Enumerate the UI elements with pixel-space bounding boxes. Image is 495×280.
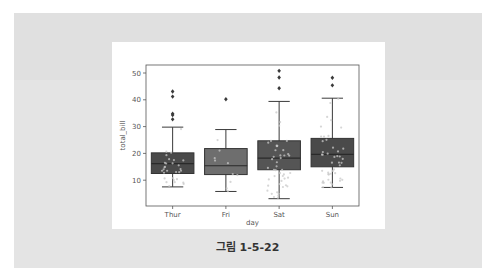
swarm-point (180, 128, 182, 130)
swarm-point (339, 164, 341, 166)
swarm-point (271, 193, 273, 195)
swarm-point (333, 156, 335, 158)
swarm-point (270, 140, 272, 142)
swarm-point (339, 180, 341, 182)
swarm-point (273, 156, 275, 158)
swarm-point (266, 190, 268, 192)
swarm-point (271, 158, 273, 160)
boxplot-chart: 1020304050total_billdayThurFriSatSun (112, 42, 385, 229)
swarm-point (322, 180, 324, 182)
swarm-point (168, 185, 170, 187)
swarm-point (327, 135, 329, 137)
y-tick-label: 50 (132, 70, 141, 78)
swarm-point (327, 173, 329, 175)
swarm-point (171, 162, 173, 164)
swarm-point (273, 175, 275, 177)
swarm-point (173, 159, 175, 161)
swarm-point (175, 171, 177, 173)
swarm-point (178, 164, 180, 166)
x-tick-label: Thur (164, 211, 181, 219)
swarm-point (274, 149, 276, 151)
swarm-point (331, 162, 333, 164)
x-tick-label: Sat (273, 211, 285, 219)
swarm-point (337, 98, 339, 100)
swarm-point (330, 173, 332, 175)
swarm-point (323, 136, 325, 138)
x-tick-label: Fri (222, 211, 230, 219)
swarm-point (331, 183, 333, 185)
swarm-point (182, 159, 184, 161)
swarm-point (334, 172, 336, 174)
swarm-point (161, 170, 163, 172)
swarm-point (277, 197, 279, 199)
swarm-point (163, 172, 165, 174)
swarm-point (342, 158, 344, 160)
swarm-point (279, 121, 281, 123)
y-axis-label: total_bill (119, 121, 127, 151)
swarm-point (340, 162, 342, 164)
swarm-point (174, 181, 176, 183)
swarm-point (163, 166, 165, 168)
swarm-point (339, 155, 341, 157)
swarm-point (336, 155, 338, 157)
swarm-point (267, 185, 269, 187)
swarm-point (278, 183, 280, 185)
swarm-point (275, 169, 277, 171)
swarm-point (330, 186, 332, 188)
swarm-point (282, 175, 284, 177)
swarm-point (165, 181, 167, 183)
swarm-point (216, 139, 218, 141)
y-tick-label: 10 (132, 177, 141, 185)
swarm-point (325, 139, 327, 141)
swarm-point (279, 172, 281, 174)
swarm-point (267, 142, 269, 144)
swarm-point (282, 149, 284, 151)
swarm-point (182, 181, 184, 183)
swarm-point (278, 125, 280, 127)
swarm-point (180, 170, 182, 172)
swarm-point (279, 154, 281, 156)
swarm-point (320, 126, 322, 128)
swarm-point (287, 153, 289, 155)
swarm-point (268, 178, 270, 180)
swarm-point (226, 187, 228, 189)
swarm-point (286, 185, 288, 187)
y-tick-label: 40 (132, 96, 141, 104)
swarm-point (275, 111, 277, 113)
swarm-point (327, 153, 329, 155)
swarm-point (287, 177, 289, 179)
x-tick-label: Sun (326, 211, 339, 219)
swarm-point (341, 179, 343, 181)
swarm-point (232, 173, 234, 175)
plot-area (146, 65, 359, 206)
swarm-point (322, 151, 324, 153)
swarm-point (321, 170, 323, 172)
swarm-point (326, 116, 328, 118)
swarm-point (214, 157, 216, 159)
swarm-point (229, 181, 231, 183)
swarm-point (280, 157, 282, 159)
swarm-point (339, 177, 341, 179)
swarm-point (337, 150, 339, 152)
swarm-point (168, 158, 170, 160)
swarm-point (330, 119, 332, 121)
swarm-point (165, 150, 167, 152)
swarm-point (320, 135, 322, 137)
swarm-point (322, 140, 324, 142)
swarm-point (227, 190, 229, 192)
swarm-point (322, 186, 324, 188)
swarm-point (276, 161, 278, 163)
swarm-point (227, 162, 229, 164)
iqr-box (258, 141, 301, 170)
swarm-point (276, 145, 278, 147)
swarm-point (330, 182, 332, 184)
swarm-point (327, 179, 329, 181)
swarm-point (273, 196, 275, 198)
swarm-point (283, 177, 285, 179)
y-tick-label: 20 (132, 150, 141, 158)
swarm-point (277, 195, 279, 197)
swarm-point (280, 180, 282, 182)
swarm-point (283, 154, 285, 156)
swarm-point (267, 167, 269, 169)
swarm-point (321, 153, 323, 155)
